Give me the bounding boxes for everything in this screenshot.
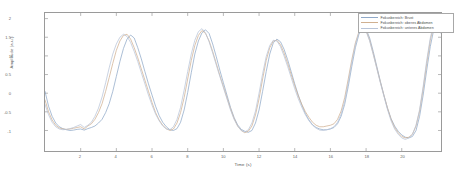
- legend-item-label: Fokusbereich: Brust: [381, 16, 414, 21]
- y-tick-label: -1: [0, 129, 11, 134]
- y-tick-label: -0.5: [0, 110, 11, 115]
- x-tick-label: 10: [211, 154, 235, 159]
- legend-item-label: Fokusbereich: unteres Abdomen: [381, 26, 434, 31]
- x-tick-label: 6: [140, 154, 164, 159]
- series-lines: [45, 13, 441, 151]
- series-line: [45, 20, 441, 137]
- series-line: [45, 20, 441, 137]
- legend: Fokusbereich: Brust Fokusbereich: oberes…: [358, 13, 454, 33]
- x-axis-label: Time (s): [44, 162, 442, 167]
- x-tick-label: 20: [391, 154, 415, 159]
- x-tick-label: 4: [104, 154, 128, 159]
- x-tick-label: 12: [247, 154, 271, 159]
- x-tick-label: 16: [319, 154, 343, 159]
- y-tick-label: 0.5: [0, 72, 11, 77]
- figure-canvas: Amplitude (a.u.) 21.510.50-0.5-1 2468101…: [0, 0, 458, 175]
- legend-item[interactable]: Fokusbereich: unteres Abdomen: [361, 26, 451, 31]
- y-tick-label: 1.5: [0, 34, 11, 39]
- legend-swatch-icon: [361, 22, 378, 23]
- y-tick-label: 0: [0, 91, 11, 96]
- y-tick-label: 2: [0, 15, 11, 20]
- legend-swatch-icon: [361, 28, 378, 29]
- legend-item[interactable]: Fokusbereich: Brust: [361, 16, 451, 21]
- x-tick-label: 18: [355, 154, 379, 159]
- x-tick-label: 14: [283, 154, 307, 159]
- legend-item-label: Fokusbereich: oberes Abdomen: [381, 21, 433, 26]
- x-tick-label: 2: [68, 154, 92, 159]
- legend-swatch-icon: [361, 17, 378, 18]
- series-line: [45, 20, 441, 139]
- legend-item[interactable]: Fokusbereich: oberes Abdomen: [361, 21, 451, 26]
- x-tick-label: 8: [175, 154, 199, 159]
- y-tick-label: 1: [0, 53, 11, 58]
